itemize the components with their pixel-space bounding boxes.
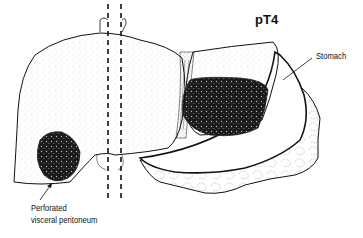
peritoneum-arrow (40, 183, 52, 200)
stomach-label: Stomach (316, 51, 346, 61)
stage-title: pT4 (255, 12, 278, 27)
primary-tumor (182, 77, 268, 135)
peritoneum-label: Perforated visceral peritoneum (31, 202, 97, 226)
pt4-diagram: pT4 Stomach Perforated visceral peritone… (0, 0, 363, 238)
gallbladder (97, 155, 106, 170)
peritoneum-label-line1: Perforated (31, 202, 97, 214)
peritoneum-label-line2: visceral peritoneum (31, 214, 97, 226)
